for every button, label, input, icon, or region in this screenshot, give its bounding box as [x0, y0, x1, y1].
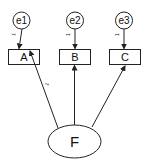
loading-arrow-F-C — [92, 66, 125, 127]
error-label-e2: e2 — [69, 15, 81, 26]
error-node-e1: e1 — [13, 12, 30, 29]
error-node-e3: e3 — [116, 12, 133, 29]
observed-label-B: B — [71, 51, 78, 63]
error-arrow-e1-A — [19, 29, 22, 49]
path-diagram: e1 e2 e3 1 1 1 A B C 1 F — [0, 0, 147, 165]
factor-node-F: F — [48, 125, 101, 158]
loading-label-F-A: 1 — [43, 81, 50, 86]
observed-node-C: C — [110, 50, 141, 65]
path-label-e1: 1 — [10, 32, 16, 36]
observed-label-C: C — [121, 51, 129, 63]
observed-label-A: A — [20, 51, 28, 63]
loading-arrow-F-A — [30, 51, 58, 128]
factor-label-F: F — [70, 133, 79, 150]
path-label-e2: 1 — [65, 33, 71, 36]
observed-node-A: A — [9, 50, 40, 65]
error-label-e1: e1 — [16, 15, 28, 26]
path-label-e3: 1 — [114, 33, 120, 36]
error-label-e3: e3 — [118, 15, 130, 26]
observed-node-B: B — [60, 50, 91, 65]
error-node-e2: e2 — [67, 12, 84, 29]
